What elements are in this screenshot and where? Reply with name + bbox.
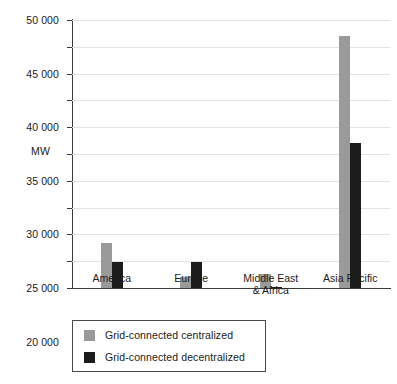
y-axis-tick-label: 30 000 xyxy=(26,228,59,240)
legend-item: Grid-connected centralized xyxy=(84,329,233,341)
legend-item: Grid-connected decentralized xyxy=(84,351,245,363)
chart-container: MW 05 00010 00015 00020 00025 00030 0003… xyxy=(0,0,397,384)
legend-label: Grid-connected decentralized xyxy=(105,351,245,363)
bar-group xyxy=(260,20,282,288)
y-axis-tick: 40 000 xyxy=(67,74,72,75)
y-axis-tick: 5 000 xyxy=(67,261,72,262)
plot-area: 05 00010 00015 00020 00025 00030 00035 0… xyxy=(72,20,390,288)
y-axis-tick: 45 000 xyxy=(67,47,72,48)
y-axis-tick: 0 xyxy=(67,288,72,289)
legend-swatch xyxy=(84,352,95,363)
y-axis-tick-label: 35 000 xyxy=(26,175,59,187)
bar-group xyxy=(339,20,361,288)
y-axis-tick-label: 40 000 xyxy=(26,121,59,133)
y-axis-tick: 35 000 xyxy=(67,100,72,101)
legend-label: Grid-connected centralized xyxy=(105,329,233,341)
y-axis-tick-label: 50 000 xyxy=(26,14,59,26)
legend-swatch xyxy=(84,330,95,341)
y-axis-tick: 30 000 xyxy=(67,127,72,128)
y-axis-tick-label: 20 000 xyxy=(26,336,59,348)
bar xyxy=(339,36,350,288)
y-axis-tick-label: 25 000 xyxy=(26,282,59,294)
x-axis-category-label: Asia Pacific xyxy=(295,272,397,284)
y-axis-tick: 25 000 xyxy=(67,154,72,155)
y-axis-tick: 10 000 xyxy=(67,234,72,235)
y-axis-tick: 15 000 xyxy=(67,208,72,209)
y-axis-tick: 50 000 xyxy=(67,20,72,21)
y-axis-tick-label: 45 000 xyxy=(26,68,59,80)
bar-group xyxy=(101,20,123,288)
bar-group xyxy=(180,20,202,288)
y-axis-tick: 20 000 xyxy=(67,181,72,182)
bar xyxy=(350,143,361,288)
y-axis-unit-label: MW xyxy=(10,145,50,157)
chart-legend: Grid-connected centralizedGrid-connected… xyxy=(72,320,266,372)
